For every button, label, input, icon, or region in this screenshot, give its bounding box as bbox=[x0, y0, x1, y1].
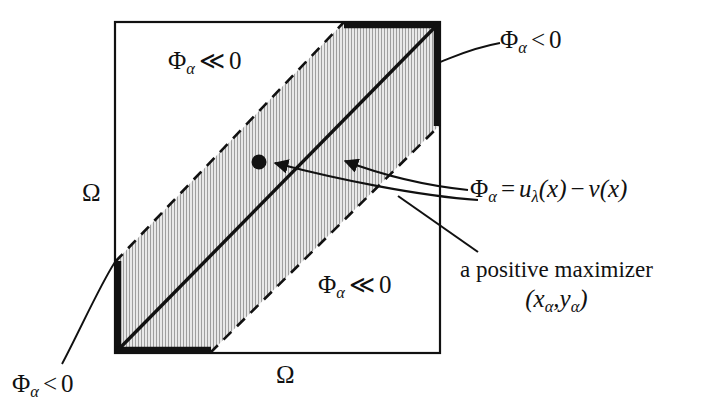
axis-label-omega-bottom: Ω bbox=[276, 362, 295, 387]
formula-u-symbol: u bbox=[519, 175, 532, 202]
formula-phi-subscript: α bbox=[488, 187, 497, 206]
phi-subscript-bottomleft: α bbox=[30, 382, 39, 401]
phi-symbol-topright: Φ bbox=[500, 26, 518, 53]
maximizer-caption-text: a positive maximizer bbox=[460, 257, 653, 282]
leader-line-maximizer-caption bbox=[398, 196, 478, 252]
relation-upper: ≪ bbox=[195, 47, 229, 74]
maximizer-coordinates: (xα,yα) bbox=[460, 286, 653, 315]
phi-subscript-upper: α bbox=[186, 59, 195, 78]
relation-lower: ≪ bbox=[345, 271, 379, 298]
phi-symbol-upper: Φ bbox=[168, 47, 186, 74]
coords-close-paren: ) bbox=[579, 285, 587, 312]
phi-symbol-bottomleft: Φ bbox=[12, 370, 30, 397]
label-phi-much-less-zero-lower: Φα≪0 bbox=[318, 272, 391, 301]
value-topright: 0 bbox=[549, 26, 562, 53]
label-phi-much-less-zero-upper: Φα≪0 bbox=[168, 48, 241, 77]
maximizer-point-dot bbox=[252, 155, 267, 170]
formula-phi-symbol: Φ bbox=[470, 175, 488, 202]
formula-minus: − bbox=[566, 175, 588, 202]
formula-u-subscript: λ bbox=[532, 187, 539, 206]
value-lower: 0 bbox=[379, 271, 392, 298]
formula-v-argument: (x) bbox=[600, 175, 628, 202]
diagram-svg bbox=[0, 0, 702, 419]
coords-y-symbol: y bbox=[560, 285, 571, 312]
relation-topright: < bbox=[527, 26, 549, 53]
label-phi-less-zero-topright: Φα<0 bbox=[500, 27, 562, 56]
leader-line-phi-less-zero-topright bbox=[440, 43, 500, 62]
relation-bottomleft: < bbox=[39, 370, 61, 397]
phi-subscript-lower: α bbox=[336, 283, 345, 302]
coords-open-paren: ( bbox=[525, 285, 533, 312]
formula-v-symbol: v bbox=[589, 175, 600, 202]
formula-equals: = bbox=[497, 175, 519, 202]
leader-line-phi-less-zero-bottomleft bbox=[62, 262, 115, 364]
label-maximizer-caption: a positive maximizer (xα,yα) bbox=[460, 258, 653, 315]
axis-label-omega-left: Ω bbox=[82, 180, 101, 205]
formula-u-argument: (x) bbox=[539, 175, 567, 202]
phi-subscript-topright: α bbox=[518, 38, 527, 57]
figure-canvas: Φα≪0 Φα≪0 Φα<0 Φα<0 Φα=uλ(x)−v(x) a posi… bbox=[0, 0, 702, 419]
coords-x-symbol: x bbox=[534, 285, 545, 312]
coords-x-subscript: α bbox=[545, 297, 554, 316]
value-upper: 0 bbox=[229, 47, 242, 74]
phi-symbol-lower: Φ bbox=[318, 271, 336, 298]
value-bottomleft: 0 bbox=[61, 370, 74, 397]
label-formula-phi-definition: Φα=uλ(x)−v(x) bbox=[470, 176, 627, 205]
label-phi-less-zero-bottomleft: Φα<0 bbox=[12, 371, 74, 400]
